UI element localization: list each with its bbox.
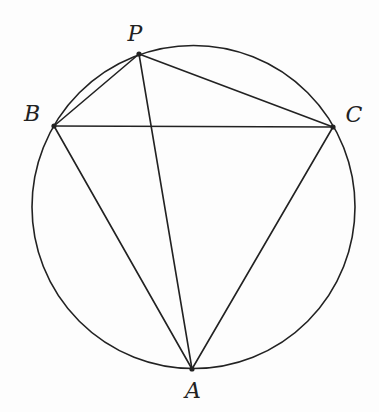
point-a-dot <box>189 366 194 371</box>
vertex-dots <box>51 51 335 371</box>
label-point-a: A <box>185 380 201 402</box>
point-b-dot <box>51 123 56 128</box>
point-c-dot <box>330 124 335 129</box>
circumcircle <box>32 46 355 369</box>
segment-pb <box>54 54 139 126</box>
segment-ca <box>192 127 333 369</box>
geometry-figure: P B C A <box>0 0 379 412</box>
label-point-b: B <box>24 103 40 125</box>
label-point-p: P <box>128 23 143 45</box>
label-point-c: C <box>346 104 363 126</box>
segment-pc <box>139 54 333 127</box>
chord-segments <box>54 54 333 369</box>
circle-diagram <box>0 0 379 412</box>
segment-bc <box>54 126 333 127</box>
point-p-dot <box>136 51 141 56</box>
